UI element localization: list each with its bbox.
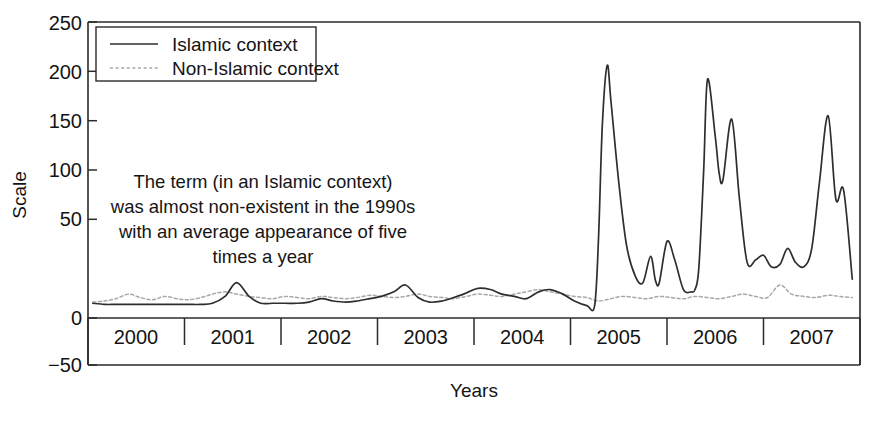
y-tick-neg50: −50 — [48, 354, 82, 376]
y-tick-200: 200 — [49, 61, 82, 83]
y-tick-150: 150 — [49, 110, 82, 132]
x-tick-2006: 2006 — [693, 326, 738, 348]
y-axis-tick-labels: 250 200 150 100 50 0 −50 — [48, 12, 82, 376]
annotation-line-4: times a year — [213, 246, 314, 267]
x-tick-2007: 2007 — [789, 326, 834, 348]
annotation-line-3: with an average appearance of five — [118, 221, 407, 242]
legend-label-non-islamic-context[interactable]: Non-Islamic context — [172, 58, 340, 79]
chart-figure: 250 200 150 100 50 0 −50 Scale 2000 2001 — [0, 0, 889, 426]
x-axis-title: Years — [450, 380, 498, 401]
legend-label-islamic-context[interactable]: Islamic context — [172, 34, 298, 55]
y-tick-0: 0 — [71, 307, 82, 329]
annotation-line-2: was almost non-existent in the 1990s — [110, 196, 415, 217]
scale-vs-years-line-chart: 250 200 150 100 50 0 −50 Scale 2000 2001 — [0, 0, 889, 426]
x-tick-2001: 2001 — [210, 326, 255, 348]
x-tick-2005: 2005 — [596, 326, 641, 348]
y-tick-250: 250 — [49, 12, 82, 34]
legend[interactable]: Islamic context Non-Islamic context — [96, 27, 340, 81]
y-axis-title: Scale — [9, 171, 30, 219]
x-tick-2002: 2002 — [307, 326, 352, 348]
x-tick-2003: 2003 — [403, 326, 448, 348]
annotation-line-1: The term (in an Islamic context) — [133, 171, 392, 192]
x-tick-2000: 2000 — [114, 326, 159, 348]
y-tick-100: 100 — [49, 159, 82, 181]
x-tick-2004: 2004 — [500, 326, 545, 348]
y-tick-50: 50 — [60, 208, 82, 230]
